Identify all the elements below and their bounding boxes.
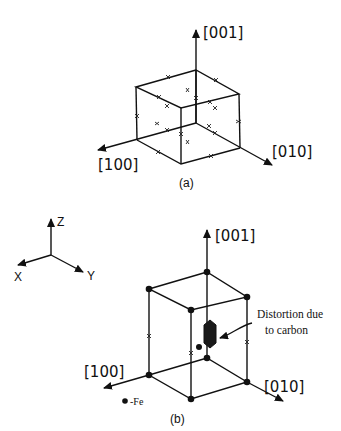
cube-a [136, 70, 240, 164]
label-010-a: [010] [272, 143, 312, 161]
ref-x-arrow [18, 255, 51, 265]
label-100-b: [100] [84, 363, 124, 381]
annotation-line-2: to carbon [265, 324, 308, 336]
axis-010-arrow [196, 123, 272, 165]
bct-cell [149, 272, 247, 399]
caption-a: (a) [179, 176, 194, 190]
legend-fe-dot-icon [122, 398, 128, 404]
legend-fe-label: -Fe [130, 396, 144, 407]
figure-canvas: [001] [100] [010] (a) Z X Y [0, 0, 341, 431]
carbon-distortion-shape [204, 320, 216, 348]
annotation-line-1: Distortion due [257, 308, 323, 320]
label-010-b: [010] [264, 378, 304, 396]
panel-b-diagram: Z X Y [14, 215, 323, 426]
ref-y-arrow [51, 255, 83, 272]
label-100-a: [100] [98, 156, 138, 174]
reference-axes: Z X Y [14, 215, 95, 284]
label-001-a: [001] [203, 24, 243, 42]
panel-a-diagram: [001] [100] [010] (a) [98, 24, 312, 190]
label-001-b: [001] [215, 227, 255, 245]
interstitial-site-markers [135, 75, 241, 158]
ref-label-y: Y [87, 269, 95, 283]
legend-fe: -Fe [122, 396, 144, 407]
ref-label-x: X [14, 270, 22, 284]
caption-b: (b) [170, 412, 185, 426]
ref-label-z: Z [57, 215, 64, 229]
